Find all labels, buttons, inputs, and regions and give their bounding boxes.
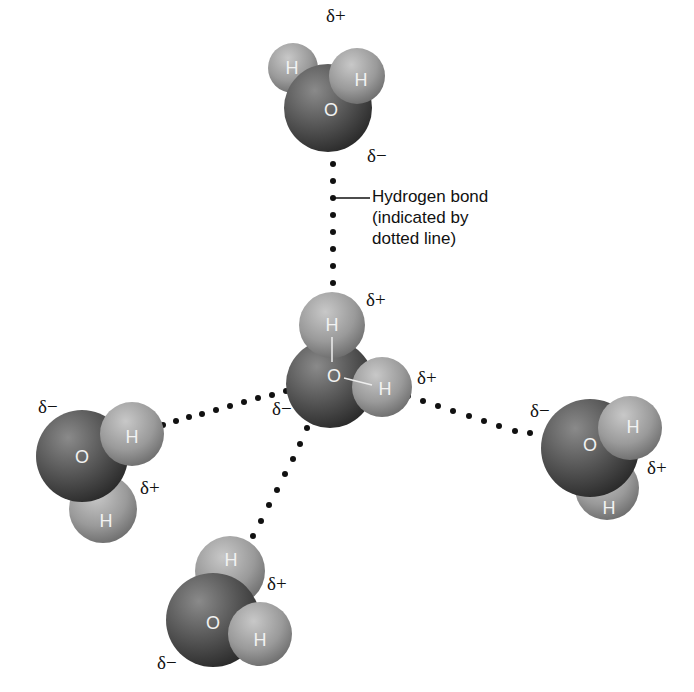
hydrogen-label: H	[286, 58, 299, 78]
hydrogen-bond-callout: Hydrogen bond (indicated by dotted line)	[372, 186, 488, 249]
charge-positive: δ+	[366, 289, 386, 310]
water-molecule-left: O H H	[36, 402, 164, 543]
oxygen-label: O	[583, 435, 597, 455]
hydrogen-label: H	[355, 70, 368, 90]
charge-positive: δ+	[267, 573, 287, 594]
water-molecule-right: O H H	[541, 396, 662, 520]
water-hbond-diagram: H H O H O H O H H O H H H O H	[0, 0, 694, 692]
charge-negative: δ−	[38, 396, 58, 417]
hydrogen-label: H	[603, 498, 616, 518]
hydrogen-label: H	[627, 417, 640, 437]
hydrogen-label: H	[225, 550, 238, 570]
hydrogen-label: H	[254, 630, 267, 650]
hbond-right	[405, 393, 533, 436]
charge-positive: δ+	[417, 367, 437, 388]
charge-negative: δ−	[530, 400, 550, 421]
water-molecule-top: H H O	[268, 43, 385, 152]
hydrogen-label: H	[379, 379, 392, 399]
hydrogen-label: H	[100, 511, 113, 531]
callout-line-3: dotted line)	[372, 228, 488, 249]
charge-negative: δ−	[157, 652, 177, 673]
charge-negative: δ−	[272, 398, 292, 419]
oxygen-label: O	[206, 613, 220, 633]
hbond-bottom	[250, 425, 310, 539]
charge-negative: δ−	[367, 145, 387, 166]
hbond-top	[330, 161, 336, 301]
hbond-left	[160, 388, 289, 428]
callout-line-2: (indicated by	[372, 207, 488, 228]
oxygen-label: O	[324, 100, 338, 120]
charge-positive: δ+	[140, 477, 160, 498]
charge-positive: δ+	[647, 457, 667, 478]
callout-line-1: Hydrogen bond	[372, 186, 488, 207]
hydrogen-label: H	[326, 315, 339, 335]
hydrogen-label: H	[126, 427, 139, 447]
water-molecule-center: H O H	[286, 292, 412, 428]
charge-positive: δ+	[326, 5, 346, 26]
water-molecule-bottom: H O H	[166, 536, 292, 667]
oxygen-label: O	[327, 366, 341, 386]
oxygen-label: O	[75, 447, 89, 467]
